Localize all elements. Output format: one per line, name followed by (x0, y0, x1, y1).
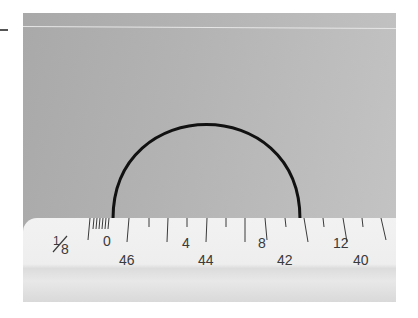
scale-bottom-46: 46 (119, 252, 135, 268)
edge-mark (0, 29, 8, 31)
scale-top-8: 8 (258, 235, 266, 251)
scale-top-12: 12 (333, 235, 349, 251)
ruler-markings: 1 8 0 4 8 12 46 44 42 40 (23, 218, 396, 302)
photo: 1 8 0 4 8 12 46 44 42 40 (23, 13, 396, 302)
fraction-denominator: 8 (61, 241, 69, 257)
scale-bottom-44: 44 (198, 252, 214, 268)
ruler: 1 8 0 4 8 12 46 44 42 40 (23, 218, 396, 302)
scale-top-4: 4 (182, 235, 190, 251)
scale-bottom-40: 40 (353, 252, 369, 268)
scale-top-0: 0 (103, 233, 111, 249)
scale-bottom-42: 42 (277, 252, 293, 268)
